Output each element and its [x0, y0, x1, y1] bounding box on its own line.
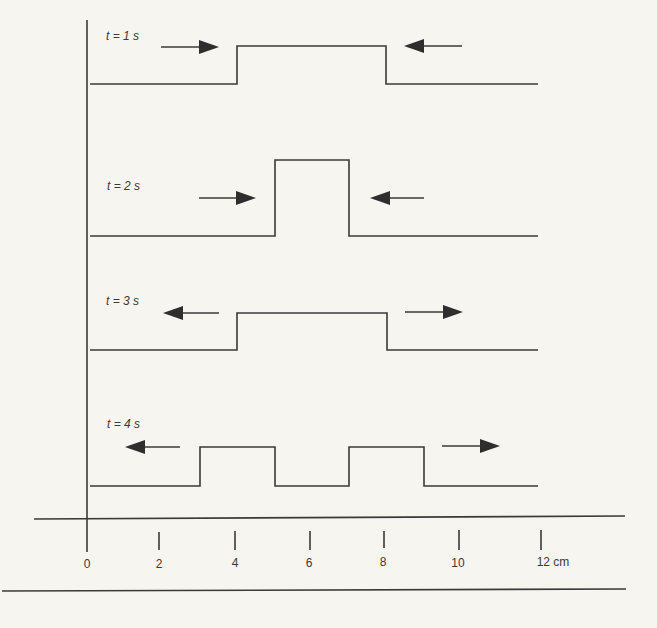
tick-label-2: 2 — [156, 557, 163, 571]
arrow-right-icon — [161, 40, 219, 54]
tick-label-12cm: 12 cm — [537, 555, 570, 569]
arrow-left-icon — [370, 191, 424, 205]
time-label-t1: t = 1 s — [106, 29, 139, 43]
pulse-profile-t3 — [90, 313, 538, 350]
pulse-profile-t4 — [90, 447, 538, 486]
arrow-right-icon — [405, 305, 463, 319]
time-label-t2: t = 2 s — [107, 179, 140, 193]
arrow-right-icon — [199, 191, 256, 205]
time-label-t3: t = 3 s — [106, 294, 139, 308]
arrow-left-icon — [404, 39, 462, 53]
diagram-canvas — [0, 0, 657, 628]
tick-label-6: 6 — [306, 556, 313, 570]
horizontal-axis — [34, 516, 625, 519]
tick-label-4: 4 — [232, 556, 239, 570]
arrow-right-icon — [442, 439, 500, 453]
arrow-left-icon — [125, 440, 180, 454]
pulse-diagram: t = 1 s t = 2 s t = 3 s t = 4 s 0 2 4 6 … — [0, 0, 657, 628]
time-label-t4: t = 4 s — [107, 417, 140, 431]
tick-label-0: 0 — [84, 557, 91, 571]
bottom-rule — [2, 589, 626, 591]
tick-label-8: 8 — [380, 555, 387, 569]
pulse-profile-t2 — [90, 160, 538, 236]
tick-label-10: 10 — [451, 556, 464, 570]
arrow-left-icon — [163, 306, 219, 320]
pulse-profile-t1 — [90, 46, 538, 84]
